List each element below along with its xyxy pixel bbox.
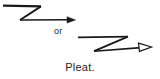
figure-caption: Pleat. bbox=[0, 61, 160, 74]
solid-symbol-top-stroke bbox=[3, 6, 41, 7]
solid-arrowhead-icon bbox=[67, 17, 76, 23]
figure-container: or Pleat. bbox=[0, 0, 160, 79]
pleat-symbol-open-arrow bbox=[78, 37, 152, 52]
pleat-symbol-solid-arrow bbox=[3, 6, 76, 24]
open-symbol-top-stroke bbox=[78, 37, 128, 38]
solid-symbol-diagonal-stroke bbox=[20, 6, 41, 20]
open-arrowhead-icon bbox=[139, 43, 152, 51]
or-connector: or bbox=[54, 26, 62, 36]
